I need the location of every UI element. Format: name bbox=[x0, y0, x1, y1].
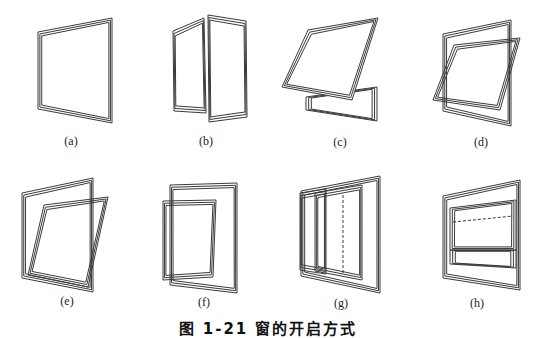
casement-right-leaf-outer bbox=[208, 15, 247, 122]
sliding-panel-1 bbox=[315, 185, 362, 280]
panel-label-e: (e) bbox=[60, 294, 73, 309]
panel-label-c: (c) bbox=[333, 135, 346, 150]
center-pivot-leaf-b-outer bbox=[163, 200, 216, 280]
sliding-panel-1-middle bbox=[316, 187, 360, 277]
fixed-window-frame-middle bbox=[40, 20, 111, 121]
pivot-sash bbox=[433, 38, 520, 110]
panel-label-g: (g) bbox=[334, 296, 348, 311]
top-clipped-text: ······ bbox=[175, 0, 198, 5]
sash-upper-panel bbox=[450, 200, 516, 250]
sliding-panel-1-outer bbox=[315, 185, 362, 280]
panel-label-f: (f) bbox=[198, 295, 210, 310]
vertical-pivot-frame-middle bbox=[24, 180, 92, 289]
figure-caption: 图 1-21 窗的开启方式 bbox=[179, 317, 358, 338]
sash-outer-frame-inner bbox=[447, 184, 517, 285]
sash-lower-panel bbox=[450, 250, 516, 268]
sash-upper-panel-middle bbox=[452, 202, 514, 249]
casement-left-leaf-inner bbox=[175, 23, 204, 108]
top-hung-sash bbox=[282, 18, 378, 100]
sash-upper-panel-inner bbox=[454, 203, 511, 246]
vertical-pivot-sash bbox=[28, 197, 108, 287]
pivot-outer-frame-outer bbox=[443, 20, 511, 126]
panel-label-d: (d) bbox=[474, 135, 488, 150]
casement-left-leaf bbox=[173, 18, 206, 113]
pivot-sash-outer bbox=[433, 38, 520, 110]
sliding-panel-2-outer bbox=[300, 189, 326, 274]
panel-label-a: (a) bbox=[64, 134, 77, 149]
vertical-pivot-frame bbox=[22, 178, 93, 292]
casement-right-leaf-inner bbox=[210, 20, 245, 117]
casement-right-leaf bbox=[208, 15, 247, 122]
casement-right-leaf-middle bbox=[209, 18, 246, 120]
sliding-panel-2 bbox=[300, 189, 326, 274]
window-drawings bbox=[22, 15, 520, 293]
panel-label-b: (b) bbox=[199, 134, 213, 149]
fixed-window-frame-inner bbox=[42, 22, 109, 118]
center-pivot-leaf-b bbox=[163, 200, 216, 280]
panel-label-h: (h) bbox=[470, 296, 484, 311]
sash-dashed-line bbox=[453, 216, 513, 222]
fixed-window-frame bbox=[38, 18, 112, 123]
fixed-window-frame-outer bbox=[38, 18, 112, 123]
pivot-outer-frame bbox=[443, 20, 511, 126]
